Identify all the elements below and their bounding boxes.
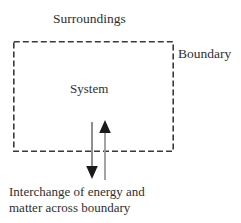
caption: Interchange of energy and matter across … <box>9 184 179 215</box>
outflow-arrow-head <box>86 166 98 179</box>
caption-line-2: matter across boundary <box>9 200 179 216</box>
boundary-label: Boundary <box>178 46 231 61</box>
caption-line-1: Interchange of energy and <box>9 184 179 200</box>
system-label: System <box>70 82 108 97</box>
surroundings-label: Surroundings <box>53 11 126 26</box>
system-boundary-diagram: Surroundings Boundary System Interchange… <box>0 0 241 223</box>
